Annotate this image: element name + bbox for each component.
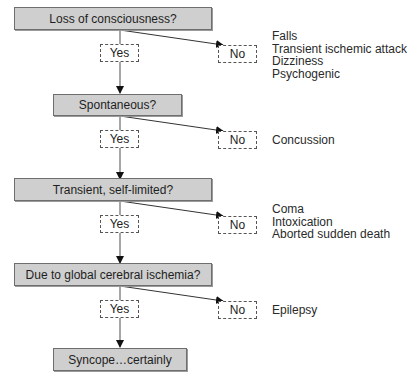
yes-box: Yes — [100, 44, 139, 62]
outcome-item: Falls — [272, 30, 407, 43]
outcome-list-3: Coma Intoxication Aborted sudden death — [272, 203, 390, 241]
outcome-item: Aborted sudden death — [272, 228, 390, 241]
question-box-global-cerebral-ischemia: Due to global cerebral ischemia? — [14, 263, 212, 286]
yes-label: Yes — [110, 46, 130, 60]
question-box-loss-of-consciousness: Loss of consciousness? — [14, 7, 212, 30]
question-box-transient-self-limited: Transient, self-limited? — [14, 178, 212, 201]
final-box-syncope: Syncope…certainly — [53, 348, 187, 371]
yes-box: Yes — [100, 300, 139, 318]
no-box: No — [218, 216, 257, 234]
outcome-item: Psychogenic — [272, 68, 407, 81]
no-label: No — [230, 47, 245, 61]
no-label: No — [230, 303, 245, 317]
no-label: No — [230, 133, 245, 147]
outcome-item: Dizziness — [272, 55, 407, 68]
question-label: Due to global cerebral ischemia? — [26, 268, 201, 282]
yes-label: Yes — [110, 132, 130, 146]
outcome-list-2: Concussion — [272, 134, 335, 147]
yes-label: Yes — [110, 302, 130, 316]
outcome-item: Coma — [272, 203, 390, 216]
question-label: Spontaneous? — [79, 98, 156, 112]
outcome-item: Concussion — [272, 134, 335, 147]
no-box: No — [218, 131, 257, 149]
question-label: Loss of consciousness? — [49, 12, 176, 26]
question-box-spontaneous: Spontaneous? — [53, 94, 182, 116]
yes-box: Yes — [100, 215, 139, 233]
no-box: No — [218, 45, 257, 63]
outcome-item: Epilepsy — [272, 304, 317, 317]
final-label: Syncope…certainly — [68, 353, 171, 367]
question-label: Transient, self-limited? — [53, 183, 173, 197]
outcome-list-4: Epilepsy — [272, 304, 317, 317]
yes-label: Yes — [110, 217, 130, 231]
outcome-list-1: Falls Transient ischemic attack Dizzines… — [272, 30, 407, 80]
no-label: No — [230, 218, 245, 232]
yes-box: Yes — [100, 130, 139, 148]
no-box: No — [218, 301, 257, 319]
